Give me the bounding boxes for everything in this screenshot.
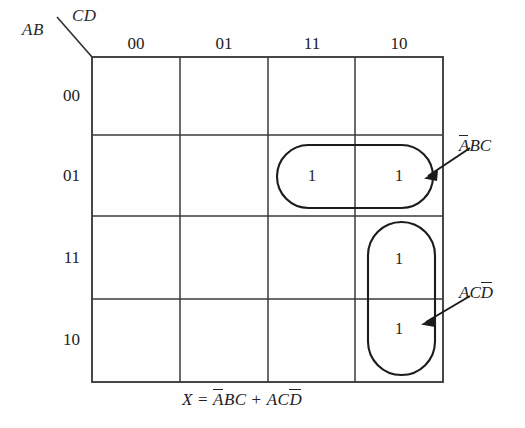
equation-term1-c: C [235,390,247,409]
karnaugh-map-figure: AB CD 00 01 11 10 00 01 11 10 1 1 1 1 AB… [0,0,525,428]
row-header-3: 10 [36,330,80,350]
axis-label-cd: CD [72,6,97,26]
cell-r1-c3: 1 [355,167,443,185]
group-label-abc: ABC [459,136,491,156]
row-header-2: 11 [36,248,80,268]
column-header-1: 01 [180,34,268,54]
equation-equals: = [193,390,213,409]
equation-term1-a: A [213,390,224,410]
equation-term2-a: A [267,390,278,409]
group-acd-var-a: A [459,283,469,302]
cell-r3-c3: 1 [355,320,443,338]
equation-lhs: X [182,390,193,409]
group-abc-var-b: B [469,136,479,155]
equation-plus: + [247,390,267,409]
group-abc-var-a: A [459,136,469,156]
group-abc-var-c: C [480,136,491,155]
column-header-3: 10 [355,34,443,54]
equation-term2-c: C [278,390,290,409]
equation-term1-b: B [224,390,235,409]
axis-label-ab: AB [22,20,44,40]
row-header-0: 00 [36,86,80,106]
group-acd-var-c: C [469,283,480,302]
equation-term2-d: D [289,390,302,410]
column-header-2: 11 [268,34,356,54]
cell-r1-c2: 1 [268,167,356,185]
result-equation: X=ABC+ACD [182,390,302,410]
group-acd-var-d: D [481,283,493,303]
cell-r2-c3: 1 [355,250,443,268]
group-label-acd: ACD [459,283,493,303]
column-header-0: 00 [92,34,180,54]
row-header-1: 01 [36,166,80,186]
diagram-canvas [0,0,525,428]
